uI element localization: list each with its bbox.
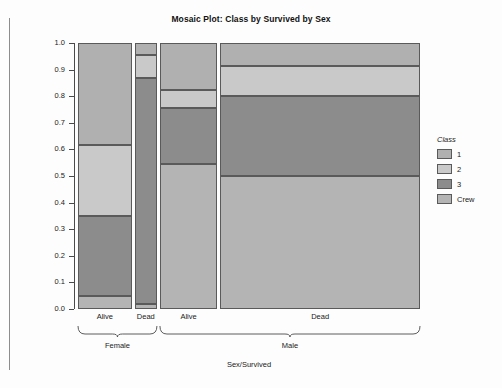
y-axis-tick-label: 0.3 bbox=[25, 224, 65, 233]
y-axis-tick bbox=[69, 149, 74, 150]
mosaic-tile[interactable] bbox=[220, 43, 420, 66]
y-axis-tick-label: 1.0 bbox=[25, 38, 65, 47]
y-axis-tick bbox=[69, 96, 74, 97]
legend-items: 123Crew bbox=[437, 149, 499, 204]
legend-swatch-icon bbox=[437, 149, 452, 159]
mosaic-tile[interactable] bbox=[135, 304, 157, 309]
y-axis-tick-label: 0.7 bbox=[25, 118, 65, 127]
mosaic-tile[interactable] bbox=[135, 78, 157, 304]
legend-item-label: 2 bbox=[457, 165, 461, 174]
mosaic-plot-figure: Mosaic Plot: Class by Survived by Sex 1.… bbox=[0, 0, 502, 388]
mosaic-tile[interactable] bbox=[78, 296, 132, 309]
y-axis-line bbox=[74, 43, 75, 309]
mosaic-tile[interactable] bbox=[78, 43, 132, 145]
y-axis-tick-label: 0.9 bbox=[25, 65, 65, 74]
legend: Class 123Crew bbox=[437, 135, 499, 209]
mosaic-column[interactable] bbox=[220, 43, 420, 309]
y-axis-tick bbox=[69, 203, 74, 204]
mosaic-column[interactable] bbox=[78, 43, 132, 309]
mosaic-tile[interactable] bbox=[160, 164, 217, 309]
legend-item-label: 3 bbox=[457, 180, 461, 189]
legend-item[interactable]: 3 bbox=[437, 179, 499, 189]
group-brace bbox=[160, 326, 420, 337]
legend-item[interactable]: Crew bbox=[437, 194, 499, 204]
mosaic-tile[interactable] bbox=[220, 176, 420, 309]
mosaic-tile[interactable] bbox=[160, 43, 217, 90]
y-axis-tick bbox=[69, 256, 74, 257]
y-axis-tick bbox=[69, 43, 74, 44]
mosaic-tile[interactable] bbox=[78, 145, 132, 215]
x-axis-tick-label: Dead bbox=[290, 312, 350, 321]
y-axis-tick bbox=[69, 123, 74, 124]
legend-swatch-icon bbox=[437, 164, 452, 174]
y-axis-tick-label: 0.0 bbox=[25, 304, 65, 313]
legend-item[interactable]: 1 bbox=[437, 149, 499, 159]
y-axis-tick-label: 0.1 bbox=[25, 277, 65, 286]
y-axis-tick-label: 0.8 bbox=[25, 91, 65, 100]
x-axis-group-label: Male bbox=[240, 341, 340, 350]
mosaic-column[interactable] bbox=[135, 43, 157, 309]
figure-left-rule bbox=[9, 18, 10, 370]
y-axis-tick-label: 0.2 bbox=[25, 251, 65, 260]
legend-item[interactable]: 2 bbox=[437, 164, 499, 174]
plot-area bbox=[78, 43, 420, 309]
legend-swatch-icon bbox=[437, 179, 452, 189]
mosaic-tile[interactable] bbox=[220, 96, 420, 176]
chart-title: Mosaic Plot: Class by Survived by Sex bbox=[0, 14, 502, 24]
x-axis-group-label: Female bbox=[67, 341, 167, 350]
y-axis-tick bbox=[69, 309, 74, 310]
mosaic-tile[interactable] bbox=[160, 90, 217, 109]
legend-item-label: 1 bbox=[457, 150, 461, 159]
legend-item-label: Crew bbox=[457, 195, 475, 204]
mosaic-tile[interactable] bbox=[135, 43, 157, 55]
y-axis-tick bbox=[69, 229, 74, 230]
y-axis-tick bbox=[69, 176, 74, 177]
y-axis-tick bbox=[69, 70, 74, 71]
mosaic-tile[interactable] bbox=[135, 55, 157, 78]
mosaic-column[interactable] bbox=[160, 43, 217, 309]
legend-swatch-icon bbox=[437, 194, 452, 204]
x-axis-title: Sex/Survived bbox=[129, 360, 369, 369]
y-axis-tick bbox=[69, 282, 74, 283]
mosaic-tile[interactable] bbox=[78, 216, 132, 296]
legend-title: Class bbox=[437, 135, 499, 144]
mosaic-tile[interactable] bbox=[160, 108, 217, 164]
group-brace bbox=[78, 326, 157, 337]
y-axis-tick-label: 0.5 bbox=[25, 171, 65, 180]
mosaic-tile[interactable] bbox=[220, 66, 420, 97]
y-axis-tick-label: 0.6 bbox=[25, 144, 65, 153]
x-axis-tick-label: Alive bbox=[159, 312, 219, 321]
y-axis-tick-label: 0.4 bbox=[25, 198, 65, 207]
